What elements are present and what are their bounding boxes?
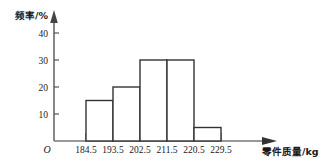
x-tick-label-0: 184.5	[75, 145, 97, 155]
histogram-bar	[167, 60, 194, 141]
x-tick-label-3: 211.5	[156, 145, 177, 155]
y-tick-label-20: 20	[39, 83, 49, 93]
histogram-bar	[113, 87, 140, 141]
histogram-chart: 40 30 20 10 频率/% O 184.5 193.5 202.5 211…	[0, 0, 334, 168]
histogram-bar	[86, 101, 113, 142]
x-tick-label-2: 202.5	[129, 145, 151, 155]
x-tick-label-1: 193.5	[102, 145, 124, 155]
y-axis-title: 频率/%	[15, 10, 48, 21]
y-tick-label-40: 40	[39, 29, 49, 39]
histogram-bars	[86, 60, 221, 141]
y-tick-label-10: 10	[39, 110, 49, 120]
x-tick-label-4: 220.5	[183, 145, 205, 155]
histogram-bar	[140, 60, 167, 141]
origin-label: O	[43, 144, 50, 155]
y-tick-label-30: 30	[39, 56, 49, 66]
x-axis-title: 零件质量/kg	[261, 146, 319, 157]
y-axis-ticks	[54, 33, 59, 114]
y-axis-arrow-icon	[50, 10, 58, 23]
histogram-bar	[194, 128, 221, 142]
x-tick-label-5: 229.5	[210, 145, 232, 155]
x-axis-arrow-icon	[262, 137, 277, 145]
chart-canvas: 40 30 20 10 频率/% O 184.5 193.5 202.5 211…	[0, 0, 334, 168]
